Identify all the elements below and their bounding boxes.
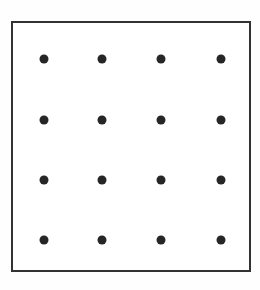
plot-frame-border [11,21,251,272]
figure-root [0,0,260,290]
